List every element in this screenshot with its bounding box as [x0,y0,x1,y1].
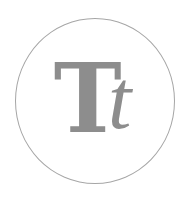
lowercase-t-glyph: t [108,58,131,142]
